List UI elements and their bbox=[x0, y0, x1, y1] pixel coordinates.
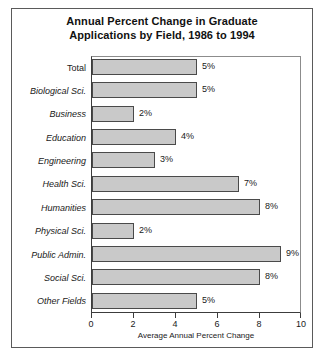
bar-value-label: 5% bbox=[202, 61, 215, 71]
category-label: Humanities bbox=[4, 203, 86, 213]
bar[interactable] bbox=[92, 176, 239, 192]
chart-title-line-1: Annual Percent Change in Graduate bbox=[11, 14, 313, 28]
category-label: Engineering bbox=[4, 156, 86, 166]
bar-row: Biological Sci.5% bbox=[0, 79, 324, 102]
bar-value-label: 8% bbox=[265, 271, 278, 281]
chart-title: Annual Percent Change in Graduate Applic… bbox=[11, 14, 313, 42]
chart-title-line-2: Applications by Field, 1986 to 1994 bbox=[11, 28, 313, 42]
bar[interactable] bbox=[92, 82, 197, 98]
bar[interactable] bbox=[92, 246, 281, 262]
bar-value-label: 5% bbox=[202, 84, 215, 94]
bar-value-label: 8% bbox=[265, 201, 278, 211]
x-tick-label: 2 bbox=[130, 319, 135, 329]
category-label: Business bbox=[4, 109, 86, 119]
bar[interactable] bbox=[92, 106, 134, 122]
bar-row: Health Sci.7% bbox=[0, 173, 324, 196]
category-label: Public Admin. bbox=[4, 250, 86, 260]
x-tick-mark bbox=[300, 313, 301, 318]
bar-row: Education4% bbox=[0, 126, 324, 149]
bar-rows: Total5%Biological Sci.5%Business2%Educat… bbox=[0, 56, 324, 313]
x-tick-label: 8 bbox=[256, 319, 261, 329]
category-label: Physical Sci. bbox=[4, 226, 86, 236]
x-tick-label: 4 bbox=[172, 319, 177, 329]
bar-value-label: 2% bbox=[139, 108, 152, 118]
x-tick-mark bbox=[91, 313, 92, 318]
bar[interactable] bbox=[92, 223, 134, 239]
x-tick-mark bbox=[259, 313, 260, 318]
bar[interactable] bbox=[92, 269, 260, 285]
bar[interactable] bbox=[92, 199, 260, 215]
x-tick-mark bbox=[133, 313, 134, 318]
x-tick-mark bbox=[217, 313, 218, 318]
x-axis-title: Average Annual Percent Change bbox=[91, 331, 301, 341]
bar-row: Humanities8% bbox=[0, 196, 324, 219]
category-label: Social Sci. bbox=[4, 273, 86, 283]
bar-row: Physical Sci.2% bbox=[0, 220, 324, 243]
x-tick-label: 0 bbox=[88, 319, 93, 329]
category-label: Total bbox=[4, 63, 86, 73]
bar-row: Engineering3% bbox=[0, 149, 324, 172]
x-tick-label: 10 bbox=[296, 319, 306, 329]
bar[interactable] bbox=[92, 129, 176, 145]
category-label: Health Sci. bbox=[4, 179, 86, 189]
bar-value-label: 4% bbox=[181, 131, 194, 141]
bar-row: Other Fields5% bbox=[0, 290, 324, 313]
x-tick-label: 6 bbox=[214, 319, 219, 329]
bar-value-label: 9% bbox=[286, 248, 299, 258]
bar[interactable] bbox=[92, 293, 197, 309]
bar-row: Business2% bbox=[0, 103, 324, 126]
bar-value-label: 5% bbox=[202, 295, 215, 305]
bar-value-label: 3% bbox=[160, 154, 173, 164]
category-label: Biological Sci. bbox=[4, 86, 86, 96]
x-tick-mark bbox=[175, 313, 176, 318]
bar[interactable] bbox=[92, 152, 155, 168]
bar-row: Social Sci.8% bbox=[0, 266, 324, 289]
category-label: Education bbox=[4, 133, 86, 143]
bar-row: Public Admin.9% bbox=[0, 243, 324, 266]
bar-value-label: 2% bbox=[139, 225, 152, 235]
bar-value-label: 7% bbox=[244, 178, 257, 188]
bar[interactable] bbox=[92, 59, 197, 75]
category-label: Other Fields bbox=[4, 296, 86, 306]
bar-row: Total5% bbox=[0, 56, 324, 79]
